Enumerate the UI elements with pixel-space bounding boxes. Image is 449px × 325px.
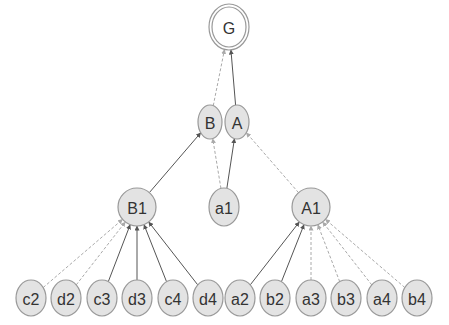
node-label: B <box>205 115 216 132</box>
edge-B-to-G <box>213 49 224 105</box>
edge-A-to-G <box>231 50 236 105</box>
node-label: b3 <box>337 291 355 308</box>
node-c3: c3 <box>87 280 117 316</box>
node-b4: b4 <box>402 280 432 316</box>
node-B1: B1 <box>118 188 156 226</box>
node-b2: b2 <box>260 280 290 316</box>
node-G: G <box>209 4 249 50</box>
node-c4: c4 <box>158 280 188 316</box>
node-d3: d3 <box>122 280 152 316</box>
edge-b2-to-A1 <box>281 225 304 282</box>
node-A: A <box>225 105 249 139</box>
node-label: a2 <box>231 291 249 308</box>
node-label: A1 <box>301 200 321 217</box>
edge-c3-to-B1 <box>108 225 130 282</box>
node-a4: a4 <box>367 280 397 316</box>
node-B: B <box>198 105 222 139</box>
node-label: A <box>232 115 243 132</box>
node-label: d4 <box>199 291 217 308</box>
node-label: a3 <box>302 291 320 308</box>
node-label: d3 <box>128 291 146 308</box>
node-label: B1 <box>127 200 147 217</box>
node-label: G <box>223 20 235 37</box>
node-c2: c2 <box>16 280 46 316</box>
node-label: c4 <box>165 291 182 308</box>
node-d4: d4 <box>193 280 223 316</box>
node-a3: a3 <box>296 280 326 316</box>
edge-A1-to-A <box>246 133 298 193</box>
node-b3: b3 <box>331 280 361 316</box>
node-label: b2 <box>266 291 284 308</box>
tree-diagram: GBAB1a1A1c2d2c3d3c4d4a2b2a3b3a4b4 <box>0 0 449 325</box>
node-label: c2 <box>23 291 40 308</box>
edge-b3-to-A1 <box>318 225 340 282</box>
node-label: d2 <box>57 291 75 308</box>
node-label: b4 <box>408 291 426 308</box>
edges-layer <box>43 49 405 287</box>
edge-b4-to-A1 <box>325 219 404 287</box>
node-label: a4 <box>373 291 391 308</box>
edge-c2-to-B1 <box>43 219 122 287</box>
edge-d4-to-B1 <box>149 222 198 285</box>
node-a2: a2 <box>225 280 255 316</box>
edge-c4-to-B1 <box>144 225 167 282</box>
edge-a1-to-A <box>227 139 235 189</box>
node-A1: A1 <box>292 188 330 226</box>
node-label: a1 <box>215 200 233 217</box>
edge-B1-to-B <box>149 133 200 193</box>
edge-a1-to-B <box>213 139 221 189</box>
node-a1: a1 <box>209 188 239 226</box>
node-label: c3 <box>94 291 111 308</box>
edge-a2-to-A1 <box>250 222 299 285</box>
node-d2: d2 <box>51 280 81 316</box>
